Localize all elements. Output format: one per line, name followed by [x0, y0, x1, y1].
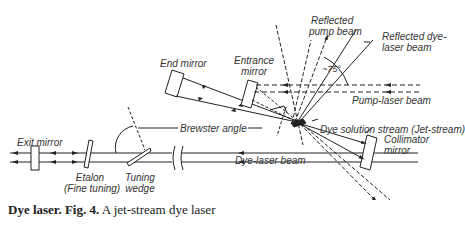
entrance-mirror-label-line1: Entrance — [232, 55, 276, 66]
figure-caption: Dye laser. Fig. 4. A jet-stream dye lase… — [8, 202, 215, 218]
reflected-dye-label-line1: Reflected dye- — [382, 31, 446, 42]
tuning-wedge-label-line1: Tuning — [120, 172, 160, 183]
angle-label: ~75° — [322, 64, 341, 75]
brewster-arc — [115, 126, 133, 153]
etalon-shape — [84, 140, 93, 168]
end-mirror-shape — [165, 70, 184, 97]
entrance-mirror-label-line2: mirror — [232, 66, 276, 77]
reflected-dye-label-line2: laser beam — [382, 42, 431, 53]
brewster-angle-label: Brewster angle — [180, 123, 247, 134]
caption-text: A jet-stream dye laser — [99, 202, 215, 217]
reflected-pump-label-line1: Reflected — [311, 15, 353, 26]
exit-mirror-shape — [31, 146, 39, 170]
tuning-wedge-label-line2: wedge — [120, 183, 160, 194]
etalon-label-line1: Etalon — [64, 172, 116, 183]
collimator-label-line2: mirror — [384, 145, 410, 156]
tuning-wedge-shape — [127, 148, 151, 166]
beam-break — [173, 146, 175, 170]
dye-laser-beam-lines — [10, 153, 418, 162]
pump-laser-beam-label: Pump-laser beam — [352, 95, 431, 106]
collimator-label-line1: Collimator — [384, 134, 429, 145]
reflected-pump-label-line2: pump beam — [309, 26, 362, 37]
dye-laser-beam-label: Dye-laser beam — [235, 155, 306, 166]
caption-bold: Dye laser. Fig. 4. — [8, 202, 99, 217]
end-mirror-label: End mirror — [160, 58, 207, 69]
exit-mirror-label: Exit mirror — [17, 137, 63, 148]
etalon-label-line2: (Fine tuning) — [64, 183, 116, 194]
entrance-mirror-shape — [241, 80, 258, 108]
